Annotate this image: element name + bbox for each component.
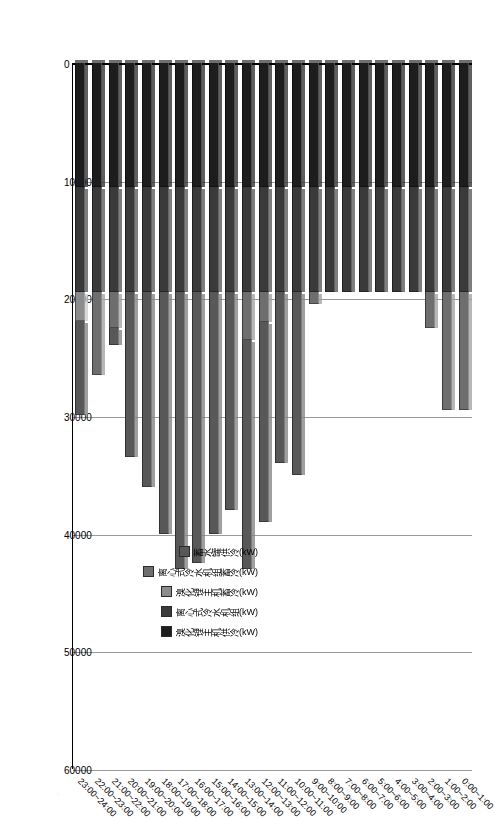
bar-row xyxy=(259,63,269,769)
legend-label: 离心式冷水机组(kW) xyxy=(176,605,258,618)
stacked-bar xyxy=(109,63,119,345)
stacked-bar xyxy=(409,63,419,292)
stacked-bar xyxy=(192,63,202,563)
bar-segment xyxy=(392,63,402,187)
bar-segment xyxy=(309,187,319,293)
bar-segment xyxy=(225,187,235,293)
bar-segment xyxy=(292,187,302,293)
bar-segment xyxy=(409,63,419,187)
bar-segment xyxy=(342,63,352,187)
stacked-bar xyxy=(92,63,102,375)
bar-segment xyxy=(75,187,85,293)
bar-row xyxy=(92,63,102,769)
stacked-bar xyxy=(259,63,269,522)
bar-segment xyxy=(175,187,185,293)
bar-segment xyxy=(309,63,319,187)
bar-row xyxy=(392,63,402,769)
bar-row xyxy=(459,63,469,769)
bar-segment xyxy=(375,187,385,293)
value-axis-label: 0 xyxy=(64,59,70,70)
stacked-bar xyxy=(225,63,235,510)
stacked-bar xyxy=(209,63,219,534)
bar-segment xyxy=(259,292,269,321)
stacked-bar xyxy=(425,63,435,328)
bar-segment xyxy=(459,63,469,187)
legend-item[interactable]: 离心式冷水机组(kW) xyxy=(161,605,258,618)
bar-row xyxy=(275,63,285,769)
legend-swatch xyxy=(143,566,154,577)
bar-row xyxy=(242,63,252,769)
bar-segment xyxy=(459,292,469,410)
bar-segment xyxy=(92,63,102,187)
legend-label: 溴化锂主机供冷(kW) xyxy=(176,625,258,638)
bar-segment xyxy=(425,63,435,187)
bar-segment xyxy=(175,292,185,569)
bar-segment xyxy=(259,322,269,522)
stacked-bar xyxy=(359,63,369,292)
bar-row xyxy=(125,63,135,769)
bar-row xyxy=(359,63,369,769)
bar-segment xyxy=(259,63,269,187)
legend-item[interactable]: 溴化锂主机供冷(kW) xyxy=(161,625,258,638)
bar-segment xyxy=(325,187,335,293)
bar-segment xyxy=(109,63,119,187)
legend-swatch xyxy=(161,586,172,597)
bar-segment xyxy=(92,187,102,293)
legend-swatch xyxy=(161,606,172,617)
stacked-bar xyxy=(442,63,452,410)
bar-segment xyxy=(159,292,169,533)
stacked-bar xyxy=(275,63,285,463)
bar-segment xyxy=(242,292,252,339)
bar-segment xyxy=(225,292,235,510)
bar-row xyxy=(375,63,385,769)
bar-segment xyxy=(142,292,152,486)
stacked-bar xyxy=(242,63,252,569)
bar-segment xyxy=(292,63,302,187)
bar-row xyxy=(175,63,185,769)
bar-segment xyxy=(442,187,452,293)
bar-segment xyxy=(309,292,319,304)
bar-segment xyxy=(75,63,85,187)
stacked-bar xyxy=(75,63,85,415)
bar-row xyxy=(192,63,202,769)
bar-segment xyxy=(159,187,169,293)
legend-label: 蓄水罐供冷(kW) xyxy=(194,545,258,558)
stacked-bar xyxy=(175,63,185,569)
legend-label: 溴化锂主机蓄冷(kW) xyxy=(176,585,258,598)
bar-segment xyxy=(409,187,419,293)
bar-row xyxy=(342,63,352,769)
bar-segment xyxy=(75,321,85,415)
bar-segment xyxy=(175,63,185,187)
bar-segment xyxy=(375,63,385,187)
bar-segment xyxy=(192,187,202,293)
bar-row xyxy=(109,63,119,769)
legend-label: 离心式冷水机组蓄冷(kW) xyxy=(158,565,258,578)
legend-item[interactable]: 蓄水罐供冷(kW) xyxy=(179,545,258,558)
bar-row xyxy=(309,63,319,769)
bar-segment xyxy=(109,292,119,327)
chart-legend: 蓄水罐供冷(kW)离心式冷水机组蓄冷(kW)溴化锂主机蓄冷(kW)离心式冷水机组… xyxy=(143,545,258,638)
bar-segment xyxy=(292,292,302,474)
bar-segment xyxy=(75,292,85,320)
bar-segment xyxy=(159,63,169,187)
bar-segment xyxy=(392,187,402,293)
bar-segment xyxy=(325,63,335,187)
bar-segment xyxy=(359,187,369,293)
bar-segment xyxy=(192,292,202,563)
bar-segment xyxy=(142,187,152,293)
bar-segment xyxy=(242,340,252,569)
bar-segment xyxy=(125,187,135,293)
legend-item[interactable]: 溴化锂主机蓄冷(kW) xyxy=(161,585,258,598)
stacked-bar xyxy=(325,63,335,292)
bar-segment xyxy=(275,292,285,463)
legend-swatch xyxy=(161,626,172,637)
legend-item[interactable]: 离心式冷水机组蓄冷(kW) xyxy=(143,565,258,578)
bar-row xyxy=(142,63,152,769)
stacked-bar xyxy=(342,63,352,292)
bar-segment xyxy=(125,63,135,187)
bar-row xyxy=(292,63,302,769)
bar-segment xyxy=(275,187,285,293)
bar-segment xyxy=(209,63,219,187)
